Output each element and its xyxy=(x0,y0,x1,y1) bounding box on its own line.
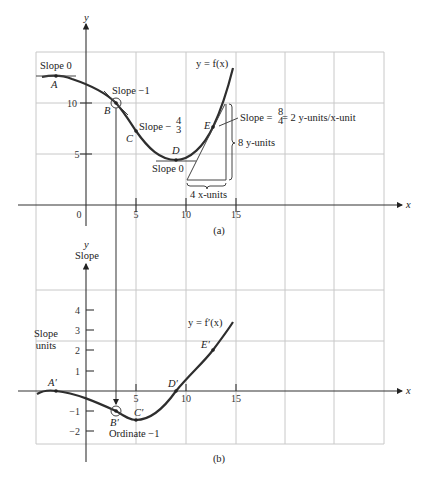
y-tick-neg1: −1 xyxy=(69,406,80,417)
y-axis-sub-b: Slope xyxy=(75,250,99,261)
y-tick-2: 2 xyxy=(75,345,80,356)
point-a-annotation: Slope 0 xyxy=(40,60,72,71)
rise-label: 8 y-units xyxy=(238,137,275,148)
point-b-label: B xyxy=(104,105,111,116)
point-c-prime-label: C′ xyxy=(134,407,144,418)
point-c-annotation: Slope − 4 3 xyxy=(139,115,182,135)
rise-brace xyxy=(229,104,235,180)
y-tick-10: 10 xyxy=(67,98,77,109)
point-b-prime-label: B′ xyxy=(110,417,119,428)
point-d-annotation: Slope 0 xyxy=(152,163,184,174)
curve-f-prime xyxy=(37,322,233,420)
x-tick-10: 10 xyxy=(181,209,191,220)
derivative-diagram: y x 10 5 0 5 10 15 A Slope 0 xyxy=(0,0,436,482)
y-tick-neg2: −2 xyxy=(69,426,80,437)
y-tick-3: 3 xyxy=(75,325,80,336)
y-tick-1: 1 xyxy=(75,366,80,377)
point-d-label: D xyxy=(171,145,180,156)
point-d-prime-label: D′ xyxy=(167,378,179,389)
point-e-annotation: Slope = 8 4 = 2 y-units/x-unit xyxy=(240,106,356,126)
svg-text:= 2 y-units/x-unit: = 2 y-units/x-unit xyxy=(282,112,356,123)
point-b-annotation: Slope −1 xyxy=(112,85,150,96)
svg-text:3: 3 xyxy=(176,124,181,135)
slope-units-label-2: units xyxy=(36,340,56,351)
point-e-label: E xyxy=(203,120,211,131)
point-c-label: C xyxy=(126,133,134,144)
x-tick-15-b: 15 xyxy=(231,393,241,404)
panel-a: y x 10 5 0 5 10 15 A Slope 0 xyxy=(18,12,411,237)
ordinate-note: Ordinate −1 xyxy=(109,428,160,439)
point-a-prime-label: A′ xyxy=(47,377,57,388)
caption-a: (a) xyxy=(213,225,225,237)
x-tick-15: 15 xyxy=(231,209,241,220)
y-axis-label-b: y xyxy=(83,239,89,250)
curve-label-f: y = f(x) xyxy=(196,58,229,70)
point-a-label: A xyxy=(50,79,58,90)
x-tick-5: 5 xyxy=(134,209,139,220)
run-label: 4 x-units xyxy=(190,189,227,200)
y-tick-4: 4 xyxy=(75,305,80,316)
curve-label-f-prime: y = f′(x) xyxy=(188,317,223,329)
panel-b: y Slope x 4 3 2 1 −1 −2 5 10 15 Slope un… xyxy=(18,239,411,465)
x-tick-10-b: 10 xyxy=(181,393,191,404)
x-axis-label-a: x xyxy=(405,199,411,210)
x-axis-label-b: x xyxy=(405,385,411,396)
y-axis-label-a: y xyxy=(83,12,89,23)
x-tick-0: 0 xyxy=(77,209,82,220)
svg-text:Slope =: Slope = xyxy=(240,112,273,123)
point-e-leader xyxy=(219,118,238,126)
y-tick-5: 5 xyxy=(75,149,80,160)
slope-units-label-1: Slope xyxy=(34,328,58,339)
caption-b: (b) xyxy=(213,453,226,465)
tangent-e xyxy=(187,104,225,180)
svg-text:Slope −: Slope − xyxy=(139,121,172,132)
x-tick-5-b: 5 xyxy=(134,393,139,404)
point-e-prime-label: E′ xyxy=(200,339,210,350)
